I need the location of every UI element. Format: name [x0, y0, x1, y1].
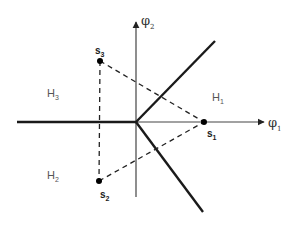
s1-label: s1 [207, 128, 217, 141]
region-h3-label: H3 [47, 87, 59, 101]
signal-point-s1 [201, 119, 207, 125]
s3-label: s3 [95, 45, 105, 58]
signal-point-s2 [96, 178, 102, 184]
signal-point-s3 [97, 58, 103, 64]
signal-space-diagram: φ2 φ1 s3 s2 s1 H3 H1 H2 [0, 0, 294, 226]
boundary-lower-right [136, 122, 203, 212]
phi1-axis-label: φ1 [268, 115, 282, 133]
boundary-upper-right [136, 41, 215, 122]
diagram-canvas: φ2 φ1 s3 s2 s1 H3 H1 H2 [0, 0, 294, 226]
region-h1-label: H1 [212, 91, 224, 105]
phi2-axis-label: φ2 [141, 13, 155, 31]
region-h2-label: H2 [47, 169, 59, 183]
s2-label: s2 [100, 189, 110, 202]
dashed-s2-s1 [99, 122, 204, 181]
dashed-s3-s1 [100, 61, 204, 122]
